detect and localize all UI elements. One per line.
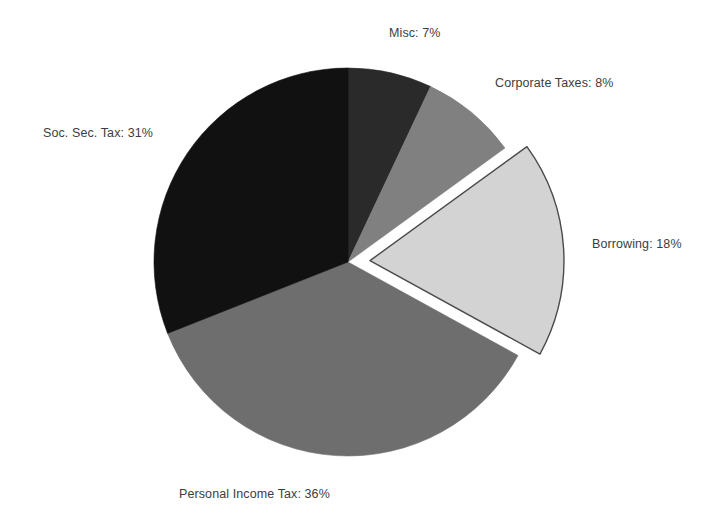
pie-label-personal-income-tax: Personal Income Tax: 36% [179,487,330,501]
pie-chart: Misc: 7% Corporate Taxes: 8% Borrowing: … [0,0,718,524]
pie-label-borrowing: Borrowing: 18% [592,237,682,251]
pie-label-misc: Misc: 7% [389,26,441,40]
pie-label-corporate-taxes: Corporate Taxes: 8% [495,76,613,90]
pie-label-soc-sec-tax: Soc. Sec. Tax: 31% [43,126,153,140]
